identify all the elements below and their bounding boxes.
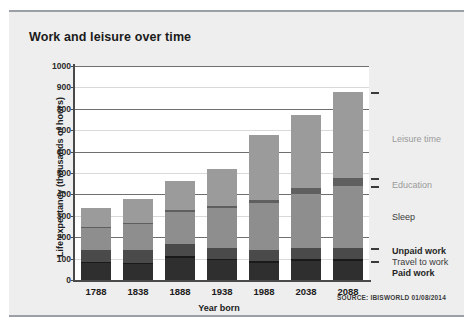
y-tick-label-0: 0 [37, 275, 71, 285]
bar-segment-leisure-time[interactable] [207, 169, 237, 206]
gridline-800 [75, 109, 369, 110]
category-tick-unpaid-work [371, 248, 379, 250]
y-tick-label-600: 600 [37, 147, 71, 157]
gridline-900 [75, 87, 369, 88]
category-label-leisure-time: Leisure time [392, 134, 441, 144]
bar-1838[interactable] [123, 199, 153, 280]
category-label-paid-work: Paid work [392, 268, 435, 278]
category-tick-leisure-time [371, 92, 379, 94]
x-axis-label: Year born [159, 303, 279, 313]
bar-segment-paid-work[interactable] [291, 261, 321, 280]
y-tick-mark-400 [71, 194, 75, 195]
category-tick-paid-work [371, 261, 379, 263]
bar-segment-unpaid-work[interactable] [291, 248, 321, 259]
y-tick-label-1000: 1000 [37, 61, 71, 71]
category-label-travel-to-work: Travel to work [392, 257, 448, 267]
y-tick-label-100: 100 [37, 254, 71, 264]
bar-segment-leisure-time[interactable] [165, 181, 195, 211]
bar-segment-leisure-time[interactable] [333, 92, 363, 179]
bar-segment-leisure-time[interactable] [123, 199, 153, 223]
bar-1788[interactable] [81, 208, 111, 280]
bar-segment-paid-work[interactable] [207, 260, 237, 280]
bar-segment-paid-work[interactable] [165, 258, 195, 280]
category-tick-education [371, 178, 379, 180]
bar-1988[interactable] [249, 135, 279, 280]
y-tick-label-400: 400 [37, 189, 71, 199]
y-axis-tick-labels: 10009008007006005004003002001000 [33, 12, 71, 327]
y-tick-mark-200 [71, 237, 75, 238]
x-axis-line [73, 280, 371, 282]
category-label-sleep: Sleep [392, 212, 415, 222]
bar-segment-paid-work[interactable] [249, 263, 279, 280]
bar-segment-leisure-time[interactable] [249, 135, 279, 200]
y-tick-label-300: 300 [37, 211, 71, 221]
bar-segment-leisure-time[interactable] [291, 115, 321, 188]
bar-segment-sleep[interactable] [123, 224, 153, 250]
plot-area [75, 66, 369, 280]
y-tick-label-200: 200 [37, 232, 71, 242]
y-tick-label-900: 900 [37, 82, 71, 92]
bar-2088[interactable] [333, 92, 363, 280]
bar-segment-sleep[interactable] [249, 203, 279, 250]
category-label-education: Education [392, 180, 432, 190]
y-tick-mark-500 [71, 173, 75, 174]
y-tick-mark-600 [71, 152, 75, 153]
y-tick-mark-300 [71, 216, 75, 217]
y-tick-mark-700 [71, 130, 75, 131]
category-label-unpaid-work: Unpaid work [392, 246, 446, 256]
bar-segment-unpaid-work[interactable] [207, 248, 237, 259]
bar-segment-unpaid-work[interactable] [249, 250, 279, 261]
y-tick-mark-1000 [71, 66, 75, 67]
y-tick-mark-100 [71, 259, 75, 260]
bar-segment-unpaid-work[interactable] [123, 250, 153, 263]
bar-segment-sleep[interactable] [207, 208, 237, 248]
category-tick-sleep [371, 186, 379, 188]
y-tick-mark-0 [71, 280, 75, 281]
bar-segment-unpaid-work[interactable] [81, 250, 111, 262]
bar-segment-paid-work[interactable] [123, 264, 153, 280]
bar-segment-leisure-time[interactable] [81, 208, 111, 226]
bar-segment-unpaid-work[interactable] [165, 244, 195, 256]
bar-segment-paid-work[interactable] [81, 263, 111, 280]
source-note: SOURCE: IBISWORLD 01/08/2014 [337, 294, 446, 301]
gridline-700 [75, 130, 369, 131]
y-tick-mark-900 [71, 87, 75, 88]
y-tick-label-800: 800 [37, 104, 71, 114]
bar-segment-sleep[interactable] [81, 228, 111, 250]
gridline-1000 [75, 66, 369, 67]
bar-segment-paid-work[interactable] [333, 261, 363, 280]
gridline-600 [75, 152, 369, 153]
y-tick-label-700: 700 [37, 125, 71, 135]
y-tick-mark-800 [71, 109, 75, 110]
bar-segment-sleep[interactable] [291, 194, 321, 249]
bar-segment-sleep[interactable] [333, 186, 363, 248]
bar-segment-sleep[interactable] [165, 212, 195, 244]
bar-2038[interactable] [291, 115, 321, 280]
bar-segment-education[interactable] [333, 178, 363, 185]
bar-1888[interactable] [165, 181, 195, 280]
bar-segment-unpaid-work[interactable] [333, 248, 363, 259]
bar-1938[interactable] [207, 169, 237, 280]
y-tick-label-500: 500 [37, 168, 71, 178]
chart-figure: Work and leisure over time Life expectan… [9, 10, 464, 317]
